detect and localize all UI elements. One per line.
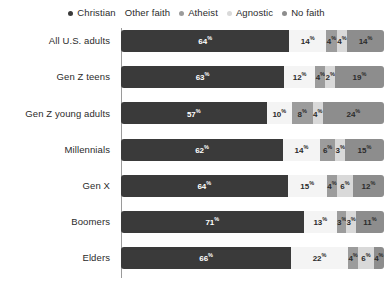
segment-value-label: 22% [313, 253, 327, 263]
bar-segment-christian[interactable]: 62% [121, 139, 283, 161]
stacked-bar[interactable]: 71%13%3%3%11% [121, 211, 384, 233]
bar-segment-other-faith[interactable]: 15% [288, 175, 327, 197]
bar-segment-atheist[interactable]: 6% [320, 139, 336, 161]
bar-segment-agnostic[interactable]: 3% [346, 211, 355, 233]
segment-value-label: 71% [205, 217, 219, 227]
category-label: Elders [0, 253, 116, 263]
legend-label: Christian [77, 8, 115, 18]
segment-value-label: 3% [346, 217, 355, 227]
percent-sign: % [281, 108, 286, 114]
stacked-bar[interactable]: 63%12%4%2%19% [121, 66, 384, 88]
segment-value-label: 14% [301, 36, 315, 46]
bar-segment-atheist[interactable]: 4% [327, 175, 337, 197]
bar-segment-christian[interactable]: 71% [121, 211, 304, 233]
legend-label: No faith [291, 8, 325, 18]
legend-item-no-faith[interactable]: No faith [282, 8, 325, 18]
legend-label: Atheist [188, 8, 218, 18]
bar-segment-atheist[interactable]: 4% [348, 247, 358, 269]
segment-value-label: 62% [195, 145, 209, 155]
segment-value: 64 [198, 37, 207, 46]
percent-sign: % [345, 180, 350, 186]
segment-value-label: 24% [346, 109, 360, 119]
legend-dot-icon [179, 11, 184, 16]
bar-segment-agnostic[interactable]: 2% [325, 66, 334, 88]
segment-value-label: 15% [357, 145, 371, 155]
percent-sign: % [322, 216, 327, 222]
bar-segment-no-faith[interactable]: 11% [356, 211, 384, 233]
segment-value: 11 [363, 218, 371, 227]
bar-segment-other-faith[interactable]: 10% [267, 102, 293, 124]
percent-sign: % [322, 252, 327, 258]
bar-segment-agnostic[interactable]: 6% [337, 175, 353, 197]
bar-segment-christian[interactable]: 63% [121, 66, 284, 88]
stacked-bar[interactable]: 64%15%4%6%12% [121, 175, 384, 197]
segment-value-label: 3% [335, 145, 344, 155]
segment-value-label: 11% [363, 217, 376, 227]
bar-segment-no-faith[interactable]: 19% [335, 66, 384, 88]
stacked-bar[interactable]: 62%14%6%3%15% [121, 139, 384, 161]
segment-value-label: 4% [327, 36, 336, 46]
bar-segment-atheist[interactable]: 4% [326, 30, 337, 52]
percent-sign: % [205, 71, 210, 77]
segment-value: 66 [199, 254, 208, 263]
bar-segment-no-faith[interactable]: 12% [353, 175, 384, 197]
segment-value-label: 4% [374, 253, 383, 263]
segment-value-label: 64% [198, 36, 212, 46]
segment-value-label: 3% [337, 217, 346, 227]
segment-value-label: 66% [199, 253, 213, 263]
bar-segment-other-faith[interactable]: 14% [289, 30, 326, 52]
bar-segment-christian[interactable]: 66% [121, 247, 291, 269]
bar-segment-no-faith[interactable]: 15% [345, 139, 384, 161]
bar-segment-no-faith[interactable]: 24% [323, 102, 384, 124]
bar-segment-other-faith[interactable]: 22% [291, 247, 348, 269]
segment-value-label: 6% [361, 253, 370, 263]
chart-legend: ChristianOther faithAtheistAgnosticNo fa… [0, 0, 389, 26]
bar-segment-no-faith[interactable]: 14% [347, 30, 384, 52]
bar-segment-christian[interactable]: 64% [121, 175, 288, 197]
segment-value-label: 63% [196, 72, 210, 82]
bar-segment-other-faith[interactable]: 12% [284, 66, 315, 88]
segment-value-label: 12% [361, 181, 375, 191]
stacked-bar[interactable]: 66%22%4%6%4% [121, 247, 384, 269]
percent-sign: % [207, 35, 212, 41]
bar-segment-agnostic[interactable]: 4% [313, 102, 323, 124]
percent-sign: % [196, 108, 201, 114]
bar-segment-christian[interactable]: 64% [121, 30, 289, 52]
bar-row: Gen Z teens63%12%4%2%19% [0, 66, 389, 88]
bar-segment-other-faith[interactable]: 14% [283, 139, 320, 161]
bar-segment-atheist[interactable]: 8% [292, 102, 312, 124]
legend-item-other-faith[interactable]: Other faith [125, 8, 170, 18]
segment-value-label: 4% [327, 181, 336, 191]
bar-row: Boomers71%13%3%3%11% [0, 211, 389, 233]
bar-segment-agnostic[interactable]: 6% [358, 247, 373, 269]
segment-value: 15 [300, 182, 309, 191]
segment-value-label: 4% [348, 253, 357, 263]
segment-value: 22 [313, 254, 322, 263]
bar-segment-atheist[interactable]: 3% [337, 211, 346, 233]
segment-value-label: 57% [187, 109, 201, 119]
stacked-bar[interactable]: 57%10%8%4%24% [121, 102, 384, 124]
bar-segment-other-faith[interactable]: 13% [304, 211, 337, 233]
percent-sign: % [379, 252, 384, 258]
bar-segment-christian[interactable]: 57% [121, 102, 267, 124]
segment-value: 10 [272, 109, 281, 118]
segment-value-label: 6% [340, 181, 349, 191]
bar-segment-agnostic[interactable]: 4% [337, 30, 348, 52]
stacked-bar[interactable]: 64%14%4%4%14% [121, 30, 384, 52]
percent-sign: % [208, 252, 213, 258]
category-label: Millennials [0, 145, 116, 155]
legend-label: Agnostic [236, 8, 273, 18]
bar-segment-no-faith[interactable]: 4% [374, 247, 384, 269]
legend-item-christian[interactable]: Christian [68, 8, 115, 18]
bar-row: Elders66%22%4%6%4% [0, 247, 389, 269]
percent-sign: % [355, 108, 360, 114]
bar-segment-atheist[interactable]: 4% [315, 66, 325, 88]
legend-item-atheist[interactable]: Atheist [179, 8, 218, 18]
legend-item-agnostic[interactable]: Agnostic [227, 8, 273, 18]
percent-sign: % [303, 144, 308, 150]
segment-value: 14 [359, 37, 368, 46]
bar-segment-agnostic[interactable]: 3% [335, 139, 344, 161]
segment-value-label: 14% [359, 36, 373, 46]
percent-sign: % [327, 144, 332, 150]
percent-sign: % [342, 35, 347, 41]
